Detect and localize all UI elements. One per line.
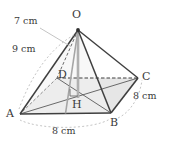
dim-leader-7cm: [40, 28, 70, 46]
vertex-label-o: O: [72, 9, 81, 20]
dimension-label-8cm-bc: 8 cm: [133, 91, 156, 101]
vertex-label-d: D: [58, 69, 67, 80]
apex-point: [76, 28, 80, 32]
vertex-label-b: B: [110, 117, 118, 128]
dimension-label-7cm: 7 cm: [14, 16, 37, 26]
vertex-label-a: A: [6, 108, 14, 119]
dimension-label-9cm: 9 cm: [12, 44, 35, 54]
vertex-label-c: C: [142, 71, 150, 82]
dimension-label-8cm-ab: 8 cm: [52, 126, 75, 136]
vertex-label-h: H: [72, 99, 82, 110]
